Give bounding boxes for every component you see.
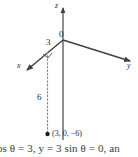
x-axis	[27, 40, 63, 70]
figure-page: z y x 0 3 6 (3, 0, −6) cos θ = 3, y = 3 …	[0, 0, 138, 157]
caption-formula-text: cos θ = 3, y = 3 sin θ = 0, an	[0, 145, 120, 154]
z-axis-label: z	[55, 2, 58, 10]
z-drop-distance-label: 6	[37, 93, 42, 102]
x-distance-label: 3	[46, 38, 51, 47]
y-axis-label: y	[127, 62, 131, 70]
y-axis	[63, 40, 130, 61]
point-coordinate-label: (3, 0, −6)	[52, 130, 82, 138]
origin-label: 0	[59, 30, 64, 39]
point-marker	[45, 132, 49, 136]
caption-formula-row: cos θ = 3, y = 3 sin θ = 0, an	[0, 145, 138, 157]
x-axis-label: x	[17, 62, 21, 70]
